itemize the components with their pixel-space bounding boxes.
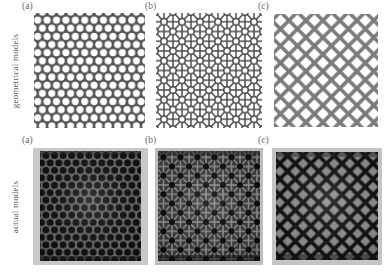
row-label-actual-models-text: actual models [10, 181, 20, 233]
caption-photo-a: (a) [22, 135, 33, 146]
panel-geometrical-c [272, 12, 380, 129]
caption-geo-b: (b) [145, 1, 156, 12]
caption-geo-c: (c) [258, 1, 269, 12]
row-label-geometrical-models: geometrical models [0, 12, 30, 130]
caption-photo-b: (b) [145, 135, 156, 146]
caption-geo-a: (a) [22, 1, 33, 12]
panel-actual-b [155, 148, 263, 265]
caption-photo-c: (c) [258, 135, 269, 146]
row-label-geometrical-models-text: geometrical models [10, 34, 20, 108]
panel-geometrical-b [155, 12, 263, 129]
figure-container: geometrical models actual models (a) (b)… [0, 0, 392, 278]
panel-actual-a [33, 148, 148, 265]
panel-geometrical-a [33, 12, 146, 129]
row-label-actual-models: actual models [0, 148, 30, 266]
panel-actual-c [272, 148, 382, 265]
